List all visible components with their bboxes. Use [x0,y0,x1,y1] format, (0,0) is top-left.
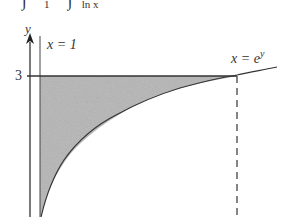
y-axis-label: y [25,21,31,37]
y-tick-3-label: 3 [15,68,22,84]
curve-label-exponent: y [260,48,264,59]
integral-1: ∫ [22,0,44,11]
curve-label: x = ey [231,48,264,67]
shaded-region [40,76,237,217]
integral-2: ∫ [68,0,82,11]
x-equals-1-label: x = 1 [47,37,77,53]
formula-fragment: ∫1 ∫ln x [22,0,99,11]
region-diagram [0,0,299,217]
integral-2-lower-limit: ln x [82,0,99,10]
integral-1-lower-limit: 1 [44,0,50,10]
curve-label-base: x = e [231,51,260,66]
